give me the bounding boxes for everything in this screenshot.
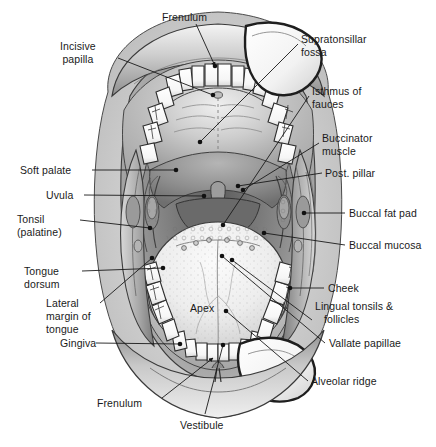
label-uvula: Uvula <box>46 189 73 202</box>
dot-tongue-dorsum <box>161 266 166 271</box>
label-soft-palate: Soft palate <box>20 164 71 177</box>
oral-cavity-figure: FrenulumIncisive papillaSoft palateUvula… <box>0 0 436 447</box>
label-tonsil-palatine: Tonsil (palatine) <box>17 213 62 239</box>
label-supratonsillar-fossa: Supratonsillar fossa <box>301 33 367 59</box>
label-cheek: Cheek <box>328 282 359 295</box>
label-apex: Apex <box>190 302 214 315</box>
label-alveolar-ridge: Alveolar ridge <box>311 375 377 388</box>
label-vestibule: Vestibule <box>180 419 224 432</box>
dot-vallate-papillae <box>220 254 225 259</box>
dot-supratonsillar <box>198 140 203 145</box>
dot-cheek <box>288 286 293 291</box>
label-post-pillar: Post. pillar <box>325 167 375 180</box>
dot-soft-palate <box>174 168 179 173</box>
dot-buccinator <box>241 188 246 193</box>
dot-frenulum-upper <box>213 64 218 69</box>
dot-gingiva <box>178 342 183 347</box>
dot-lingual-tonsils <box>230 258 235 263</box>
label-tongue-dorsum: Tongue dorsum <box>24 265 60 291</box>
label-lingual-tonsils-follicles: Lingual tonsils & follicles <box>315 300 393 326</box>
label-frenulum-lower: Frenulum <box>97 397 142 410</box>
label-isthmus-of-fauces: Isthmus of fauces <box>312 85 361 111</box>
label-buccinator-muscle: Buccinator muscle <box>322 132 373 158</box>
dot-lateral-margin <box>150 256 155 261</box>
dot-alveolar-ridge <box>224 309 229 314</box>
label-buccal-fat-pad: Buccal fat pad <box>349 207 417 220</box>
label-lateral-margin-of-tongue: Lateral margin of tongue <box>46 297 91 336</box>
label-buccal-mucosa: Buccal mucosa <box>349 239 422 252</box>
dot-incisive-papilla <box>211 93 216 98</box>
dot-post-pillar <box>236 184 241 189</box>
label-incisive-papilla: Incisive papilla <box>60 40 96 66</box>
dot-buccal-fat-pad <box>302 211 307 216</box>
dot-isthmus <box>221 223 226 228</box>
dot-tonsil <box>148 226 153 231</box>
label-gingiva: Gingiva <box>60 337 96 350</box>
dot-uvula <box>202 194 207 199</box>
dot-buccal-mucosa <box>262 231 267 236</box>
label-vallate-papillae: Vallate papillae <box>329 337 401 350</box>
label-frenulum-upper: Frenulum <box>162 11 207 24</box>
dot-vestibule <box>221 343 226 348</box>
